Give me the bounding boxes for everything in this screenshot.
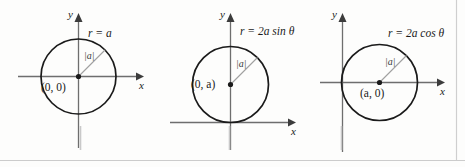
center-point-label-panel-1: (0, 0) — [41, 82, 66, 94]
y-axis-label-panel-3: y — [332, 9, 337, 20]
polar-circles-figure: y x r = a |a| (0, 0) y x r = 2a sin θ |a… — [0, 0, 465, 167]
y-axis-panel-1 — [75, 13, 83, 148]
panel-separators — [81, 126, 342, 150]
radius-label-panel-3: |a| — [385, 57, 396, 67]
x-axis-label-panel-3: x — [440, 86, 445, 97]
y-axis-label-panel-1: y — [68, 9, 73, 20]
center-dot-panel-1 — [76, 74, 81, 79]
radius-label-panel-1: |a| — [84, 51, 95, 61]
radius-label-panel-2: |a| — [236, 59, 247, 69]
center-dot-panel-2 — [228, 82, 233, 87]
y-axis-label-panel-2: y — [220, 9, 225, 20]
center-point-label-panel-2: (0, a) — [191, 79, 215, 91]
equation-label-panel-2: r = 2a sin θ — [240, 26, 294, 38]
center-dot-panel-3 — [377, 80, 382, 85]
center-point-label-panel-3: (a, 0) — [360, 88, 384, 100]
equation-label-panel-3: r = 2a cos θ — [388, 28, 444, 40]
x-axis-label-panel-1: x — [139, 80, 144, 91]
equation-label-panel-1: r = a — [88, 28, 112, 40]
x-axis-label-panel-2: x — [291, 126, 296, 137]
figure-canvas — [0, 0, 465, 167]
